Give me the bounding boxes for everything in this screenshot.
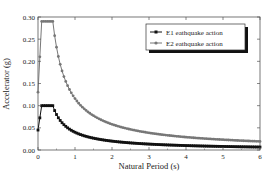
data-point-e2 [63, 75, 66, 78]
data-point-e2 [55, 46, 58, 49]
legend-label-e2: E2 eathquake action [166, 40, 223, 48]
data-point-e2 [68, 88, 71, 91]
data-point-e1 [51, 104, 54, 107]
legend-marker-e2 [154, 41, 157, 44]
data-point-e2 [38, 55, 41, 58]
data-point-e2 [74, 97, 77, 100]
data-point-e1 [57, 116, 60, 119]
data-point-e2 [72, 94, 75, 97]
x-tick-label: 4 [184, 153, 188, 161]
data-point-e2 [53, 34, 56, 37]
data-point-e2 [59, 63, 62, 66]
y-tick-label: 0.15 [23, 80, 36, 88]
legend-label-e1: E1 eathquake action [166, 29, 223, 37]
x-tick-label: 1 [73, 153, 77, 161]
data-point-e2 [37, 91, 40, 94]
legend: E1 eathquake action E2 eathquake action [146, 24, 248, 53]
x-tick-label: 0 [36, 153, 40, 161]
data-point-e2 [259, 140, 262, 143]
legend-marker-e1 [155, 31, 158, 34]
y-tick-label: 0.00 [23, 147, 36, 155]
y-tick-label: 0.30 [23, 14, 36, 22]
data-point-e1 [55, 113, 58, 116]
data-point-e1 [53, 109, 56, 112]
data-point-e2 [57, 55, 60, 58]
x-tick-label: 3 [147, 153, 151, 161]
data-point-e1 [38, 116, 41, 119]
data-point-e2 [64, 80, 67, 83]
y-tick-label: 0.20 [23, 58, 36, 66]
chart: 01234560.000.050.100.150.200.250.30 Natu… [0, 0, 273, 174]
x-tick-label: 2 [110, 153, 114, 161]
data-point-e2 [51, 20, 54, 23]
x-tick-label: 6 [258, 153, 262, 161]
data-point-e2 [70, 91, 73, 94]
data-point-e1 [37, 129, 40, 132]
y-tick-label: 0.25 [23, 36, 36, 44]
y-axis-title: Accelerator (g) [1, 58, 11, 110]
x-tick-label: 5 [221, 153, 225, 161]
data-point-e2 [61, 69, 64, 72]
y-tick-label: 0.05 [23, 124, 36, 132]
x-axis-title: Natural Period (s) [119, 161, 180, 171]
data-point-e2 [75, 100, 78, 103]
y-tick-label: 0.10 [23, 102, 36, 110]
data-point-e2 [66, 84, 69, 87]
